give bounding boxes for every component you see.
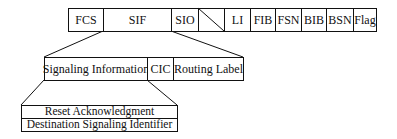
field-bib: BIB [301, 8, 327, 32]
field-label: CIC [150, 63, 170, 75]
siginfo-expand-right-line [147, 80, 177, 105]
field-reset-acknowledgment: Reset Acknowledgment [21, 105, 178, 119]
field-label: Signaling Information [43, 63, 149, 75]
field-label: Reset Acknowledgment [45, 106, 155, 118]
field-spare [198, 8, 225, 32]
field-label: FCS [75, 14, 96, 26]
field-signaling-information: Signaling Information [44, 57, 148, 81]
field-label: SIF [129, 14, 146, 26]
field-sif: SIF [103, 8, 172, 32]
field-label: FSN [277, 14, 299, 26]
field-fib: FIB [250, 8, 276, 32]
field-flag: Flag [353, 8, 377, 32]
field-cic: CIC [147, 57, 174, 81]
field-bsn: BSN [326, 8, 354, 32]
field-label: FIB [254, 14, 273, 26]
field-label: Routing Label [174, 63, 243, 75]
field-destination-signaling-identifier: Destination Signaling Identifier [21, 118, 178, 132]
field-label: LI [232, 14, 243, 26]
field-li: LI [224, 8, 251, 32]
field-routing-label: Routing Label [173, 57, 244, 81]
field-sio: SIO [171, 8, 199, 32]
field-label: Destination Signaling Identifier [27, 119, 173, 131]
field-fsn: FSN [275, 8, 302, 32]
field-label: BIB [304, 14, 324, 26]
field-label: BSN [328, 14, 351, 26]
sif-expand-right-line [171, 31, 243, 57]
field-fcs: FCS [68, 8, 104, 32]
siginfo-expand-left-line [21, 80, 44, 105]
field-label: SIO [175, 14, 194, 26]
sif-expand-left-line [44, 31, 103, 57]
field-label: Flag [354, 14, 375, 26]
